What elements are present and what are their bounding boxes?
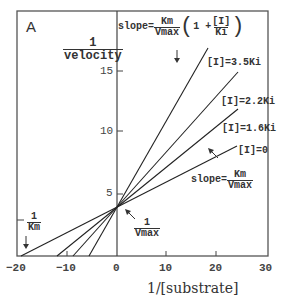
x-tick-label-m10: −10 [56, 263, 76, 274]
y-tick-label-10: 10 [100, 126, 113, 137]
y-tick-label-15: 15 [100, 66, 113, 77]
x-tick-label-0: 0 [113, 263, 120, 274]
y-tick-label-5: 5 [106, 188, 113, 199]
km-intercept-label: 1 Km [27, 212, 41, 233]
y-axis-label: 1 velocity [63, 37, 123, 62]
panel-label: A [26, 18, 36, 35]
line-i-0 [21, 146, 237, 256]
line-label-2-2ki: [I]=2.2Ki [221, 97, 275, 107]
slope-inhibited-formula: slope= Km Vmax ( 1 + [I] Ki ) [118, 12, 244, 42]
x-tick-label-m20: −20 [6, 263, 26, 274]
line-label-3-5ki: [I]=3.5Ki [207, 58, 261, 68]
x-axis-label: 1/[substrate] [147, 281, 238, 295]
km-arrowhead-icon [23, 244, 29, 249]
x-tick-label-20: 20 [209, 263, 222, 274]
slope-top-arrowhead-icon [174, 58, 180, 63]
slope-uninhibited-formula: slope= Km Vmax [191, 168, 253, 192]
line-label-1-6ki: [I]=1.6Ki [222, 124, 276, 134]
line-label-0: [I]=0 [238, 146, 268, 156]
x-tick-label-30: 30 [259, 263, 272, 274]
vmax-intercept-label: 1 Vmax [134, 218, 160, 239]
x-tick-label-10: 10 [159, 263, 172, 274]
